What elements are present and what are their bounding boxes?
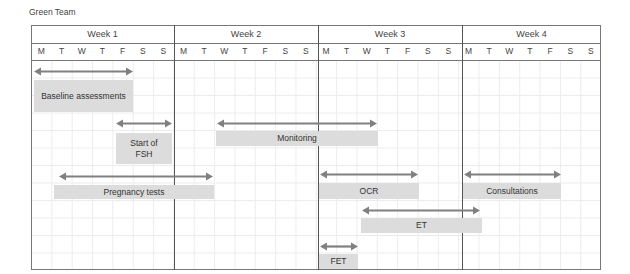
day-label: M [173,43,193,60]
week-3-label: Week 3 [318,25,462,43]
week-4-label: Week 4 [462,25,601,43]
ocr-double-arrow-icon [320,170,418,179]
day-label: M [31,43,51,60]
fsh-double-arrow-icon [116,119,172,128]
day-label: W [357,43,377,60]
day-label: T [479,43,499,60]
week-1-label: Week 1 [31,25,174,43]
day-label: T [520,43,540,60]
day-label: T [194,43,214,60]
baseline-double-arrow-icon [34,67,133,76]
consultations-bar: Consultations [463,183,561,199]
week-divider-3 [462,25,463,270]
day-label: T [235,43,255,60]
week-divider-2 [318,25,319,270]
et-bar: ET [361,218,482,233]
day-label: T [92,43,112,60]
day-label: S [275,43,295,60]
week-2-label: Week 2 [174,25,318,43]
day-label: F [112,43,132,60]
ocr-bar: OCR [319,183,419,199]
week-divider-1 [174,25,175,270]
day-label: M [316,43,336,60]
day-label: S [296,43,316,60]
day-label: S [133,43,153,60]
baseline-assessments-bar: Baseline assessments [34,80,133,112]
day-label: T [336,43,356,60]
day-label: S [560,43,580,60]
day-label: W [499,43,519,60]
fet-bar: FET [319,254,358,269]
day-header-divider [31,60,601,61]
monitoring-double-arrow-icon [217,119,377,128]
chart-title: Green Team [29,7,76,17]
day-label: F [397,43,417,60]
et-double-arrow-icon [362,206,480,215]
pregnancy-tests-bar: Pregnancy tests [54,185,214,199]
day-label: S [153,43,173,60]
day-label: W [214,43,234,60]
monitoring-bar: Monitoring [216,131,378,146]
day-label: T [377,43,397,60]
start-of-fsh-bar: Start of FSH [116,133,172,164]
day-label: S [418,43,438,60]
day-label: F [540,43,560,60]
day-label: S [438,43,458,60]
day-label: S [581,43,601,60]
day-label: F [255,43,275,60]
day-label: M [458,43,478,60]
consultations-double-arrow-icon [464,170,561,179]
pregnancy-double-arrow-icon [59,172,213,181]
day-label: W [72,43,92,60]
day-label: T [51,43,71,60]
fet-double-arrow-icon [320,242,358,251]
